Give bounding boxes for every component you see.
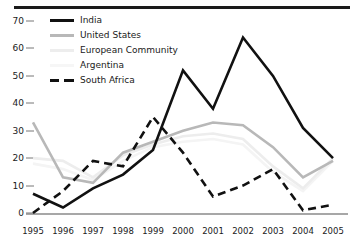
chart-plot-area bbox=[0, 0, 357, 249]
series-line-argentina bbox=[33, 139, 333, 191]
series-layer bbox=[33, 37, 333, 213]
y-axis-ticks bbox=[26, 21, 34, 213]
chart-figure: 70 60 50 40 30 20 10 0 1995 1996 1997 19… bbox=[0, 0, 357, 249]
